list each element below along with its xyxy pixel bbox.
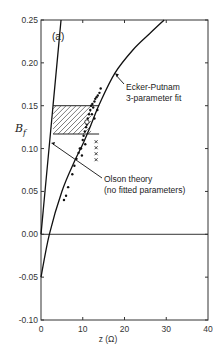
panel-label: (a)	[52, 31, 64, 42]
x-tick-label: 10	[78, 324, 88, 334]
y-axis-label: Bf	[14, 122, 28, 137]
data-point	[91, 103, 93, 105]
data-point	[93, 117, 95, 119]
data-point	[100, 87, 102, 89]
data-point	[84, 130, 86, 132]
y-tick-label: -0.10	[19, 315, 39, 325]
y-tick-label: 0.15	[21, 101, 38, 111]
data-point	[89, 109, 91, 111]
ecker-putnam-arrowhead	[115, 73, 119, 77]
data-point	[82, 135, 84, 137]
y-tick-label: 0.05	[21, 186, 38, 196]
olson-annotation-line: (no fitted parameters)	[104, 185, 185, 195]
data-point	[71, 173, 73, 175]
data-point	[85, 126, 87, 128]
ecker-putnam-arrow	[117, 76, 124, 84]
hatch-line	[113, 106, 141, 134]
y-tick-label: 0.20	[21, 58, 38, 68]
x-marker	[95, 140, 98, 143]
hatch-line	[103, 106, 131, 134]
x-tick-label: 30	[162, 324, 172, 334]
x-marker	[95, 146, 98, 149]
data-point	[96, 109, 98, 111]
x-marker	[95, 152, 98, 155]
data-point	[73, 165, 75, 167]
olson-annotation-line: Olson theory	[104, 174, 153, 184]
data-point	[92, 106, 94, 108]
data-point	[80, 147, 82, 149]
data-point	[65, 195, 67, 197]
y-tick-label: 0.10	[21, 144, 38, 154]
data-point	[63, 199, 65, 201]
data-point	[82, 139, 84, 141]
chart: 010203040 -0.10-0.050.000.050.100.150.20…	[0, 0, 224, 360]
y-axis-label-sub: f	[22, 128, 28, 137]
data-point	[84, 143, 86, 145]
data-point	[97, 94, 99, 96]
y-tick-label: 0.25	[21, 15, 38, 25]
y-tick-label: -0.05	[19, 272, 39, 282]
y-axis-label-main: B	[14, 122, 23, 135]
x-marker	[95, 158, 98, 161]
x-tick-label: 20	[120, 324, 130, 334]
open-circle-point	[85, 120, 89, 124]
hatch-line	[118, 106, 146, 134]
x-tick-label: 0	[39, 324, 44, 334]
data-point	[67, 186, 69, 188]
data-point	[88, 113, 90, 115]
data-point	[77, 152, 79, 154]
data-point	[91, 113, 93, 115]
ecker-putnam-annotation-line: Ecker-Putnam	[126, 82, 180, 92]
ecker-putnam-annotation-line: 3-parameter fit	[126, 93, 182, 103]
x-axis-label: z (Ω)	[99, 334, 118, 344]
y-tick-label: 0.00	[21, 229, 38, 239]
hatch-line	[128, 106, 156, 134]
plot-frame	[41, 20, 208, 320]
hatch-line	[123, 106, 151, 134]
data-point	[81, 154, 83, 156]
x-tick-label: 40	[203, 324, 213, 334]
hatch-line	[108, 106, 136, 134]
hatch-line	[98, 106, 126, 134]
data-point	[98, 92, 100, 94]
data-point	[93, 100, 95, 102]
